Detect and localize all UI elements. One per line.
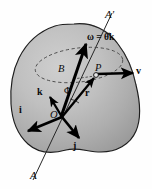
point-p-label: P	[95, 63, 101, 74]
point-b-label: B	[58, 64, 64, 75]
rigid-body-rotation-figure: A' A ω = θ̇k B P O Φ i j k r v	[0, 0, 152, 189]
unit-vector-k-label: k	[37, 87, 43, 97]
angular-velocity-label: ω = θ̇k	[87, 33, 114, 43]
figure-canvas	[0, 0, 152, 189]
unit-vector-j-label: j	[73, 141, 76, 151]
axis-label-top: A'	[105, 9, 114, 20]
velocity-vector-arrow	[96, 73, 133, 74]
axis-label-bottom: A	[30, 170, 37, 181]
origin-label: O	[50, 110, 58, 121]
velocity-vector-label: v	[136, 66, 141, 76]
position-vector-label: r	[85, 88, 89, 98]
angle-phi-label: Φ	[64, 86, 71, 96]
unit-vector-i-label: i	[19, 105, 22, 115]
